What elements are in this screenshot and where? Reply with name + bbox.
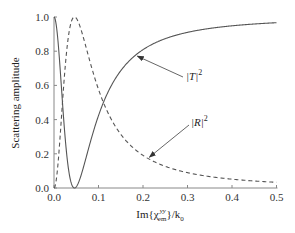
T-annotation-label: |T|2 — [186, 68, 202, 82]
R-annotation-label: |R|2 — [191, 114, 208, 128]
y-tick-label: 0.6 — [35, 79, 49, 91]
axes: 0.00.10.20.30.40.50.00.20.40.60.81.0 — [35, 11, 284, 203]
x-axis-label: Im{χyyem}/k0 — [136, 207, 184, 223]
R-arrow — [149, 125, 189, 157]
x-tick-label: 0.3 — [181, 191, 195, 203]
T-arrow — [137, 56, 183, 77]
x-tick-label: 0.5 — [270, 191, 284, 203]
series-T-squared-line — [54, 17, 277, 188]
y-tick-label: 1.0 — [35, 11, 49, 23]
annotations: |T|2|R|2 — [137, 56, 207, 157]
y-axis-label: Scattering amplitude — [9, 57, 21, 148]
y-tick-label: 0.0 — [35, 182, 49, 194]
y-tick-label: 0.8 — [35, 45, 49, 57]
scattering-amplitude-chart: 0.00.10.20.30.40.50.00.20.40.60.81.0 |T|… — [0, 0, 295, 233]
x-tick-label: 0.0 — [47, 191, 61, 203]
y-tick-label: 0.2 — [35, 148, 49, 160]
x-tick-label: 0.2 — [136, 191, 150, 203]
y-tick-label: 0.4 — [35, 114, 49, 126]
curves — [54, 17, 277, 188]
series-R-squared-line — [54, 17, 277, 188]
x-tick-label: 0.1 — [92, 191, 106, 203]
x-tick-label: 0.4 — [225, 191, 239, 203]
